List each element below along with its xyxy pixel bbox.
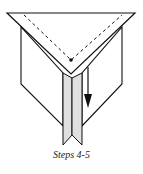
center-strip-left xyxy=(63,73,72,145)
step-caption: Steps 4-5 xyxy=(0,149,143,160)
reference-dot xyxy=(69,58,73,62)
center-strip-right xyxy=(72,73,82,145)
origami-diagram xyxy=(0,0,143,174)
